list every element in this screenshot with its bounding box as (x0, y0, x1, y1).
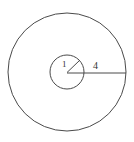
inner-radius-line (67, 60, 80, 73)
geometry-figure (0, 0, 134, 142)
inner-radius-label: 1 (62, 60, 67, 69)
outer-radius-label: 4 (93, 61, 98, 71)
concentric-circles-diagram: 4 1 (0, 0, 134, 142)
